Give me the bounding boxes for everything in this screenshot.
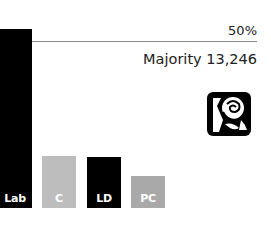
bar-label: LD [96,192,112,208]
fifty-percent-line [0,41,257,42]
bar-ld: LD [87,157,121,208]
majority-label: Majority 13,246 [143,51,257,67]
fifty-percent-label: 50% [228,23,257,38]
labour-rose-icon [205,90,253,138]
bar-lab: Lab [0,29,32,208]
bar-c: C [42,156,76,208]
bar-label: PC [140,192,156,208]
bar-pc: PC [131,176,165,208]
bar-label: Lab [4,192,25,208]
bar-label: C [55,192,63,208]
